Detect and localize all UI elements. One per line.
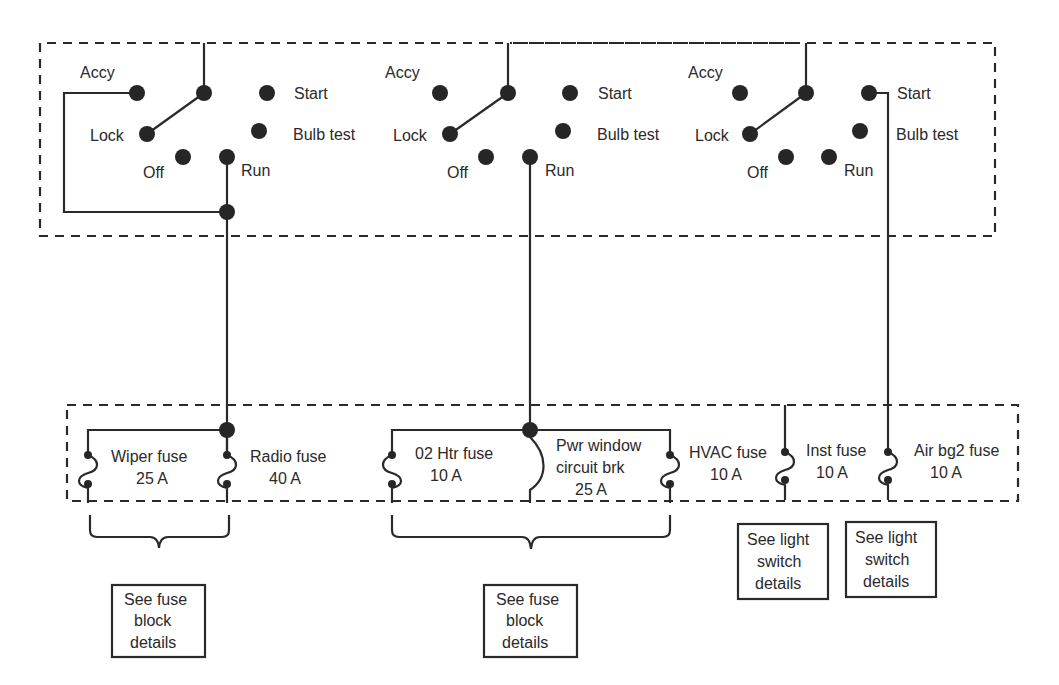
fuse-rating-air-bag: 10 A (930, 464, 962, 481)
fuse-label-wiper: Wiper fuse (111, 448, 188, 465)
position-label-run: Run (844, 162, 873, 179)
terminal-common (500, 85, 516, 101)
reference-box-light-switch-2[interactable]: See light switch details (846, 522, 936, 597)
terminal-accy (732, 85, 748, 101)
reference-box-fuse-block-1[interactable]: See fuse block details (112, 585, 205, 657)
reference-box-text-line1: See fuse (124, 591, 187, 608)
reference-box-fuse-block-2[interactable]: See fuse block details (484, 585, 577, 657)
position-label-lock: Lock (695, 127, 730, 144)
position-label-off: Off (447, 164, 469, 181)
ignition-circuit-diagram: Accy Start Lock Bulb test Off Run Accy S… (0, 0, 1059, 685)
terminal-off (175, 149, 191, 165)
fuse-label-pwr-window-line2: circuit brk (556, 459, 625, 476)
start-output-wire (869, 93, 888, 455)
reference-box-text-line3: details (502, 634, 548, 651)
position-label-start: Start (598, 85, 632, 102)
position-label-accy: Accy (80, 64, 115, 81)
position-label-off: Off (747, 164, 769, 181)
position-label-off: Off (143, 164, 165, 181)
terminal-start (562, 85, 578, 101)
fuse-labels: Wiper fuse 25 A Radio fuse 40 A 02 Htr f… (111, 437, 999, 498)
ignition-switch-enclosure (40, 43, 995, 236)
fuse-terminal (223, 451, 231, 459)
fuse-label-air-bag: Air bg2 fuse (914, 442, 999, 459)
terminal-lock (139, 126, 155, 142)
fuse-rating-pwr-window: 25 A (575, 481, 607, 498)
pwr-window-circuit-breaker-symbol (530, 430, 544, 503)
terminal-bulb-test (555, 123, 571, 139)
position-label-run: Run (241, 162, 270, 179)
accy-jumper-wire (64, 93, 227, 212)
position-label-start: Start (897, 85, 931, 102)
fuse-rating-wiper: 25 A (136, 470, 168, 487)
reference-box-text-line2: switch (865, 551, 909, 568)
terminal-common (196, 85, 212, 101)
position-label-lock: Lock (90, 127, 125, 144)
terminal-off (478, 149, 494, 165)
position-label-lock: Lock (393, 127, 428, 144)
o2-htr-fuse-symbol (383, 455, 401, 503)
grouping-braces (90, 515, 670, 549)
switch-wiper (750, 93, 806, 134)
reference-box-text-line3: details (863, 573, 909, 590)
fuse-terminal (666, 480, 674, 488)
terminal-off (778, 149, 794, 165)
position-label-start: Start (294, 85, 328, 102)
fuse-rating-inst: 10 A (816, 464, 848, 481)
fuse-terminal (388, 480, 396, 488)
pwr-window-fuse-symbol (661, 455, 679, 503)
terminal-bulb-test (251, 123, 267, 139)
fuse-terminal (884, 448, 892, 456)
fuse-block-enclosure (67, 405, 1018, 501)
fuse-terminal (781, 476, 789, 484)
junction-node (522, 422, 538, 438)
reference-box-text-line3: details (755, 575, 801, 592)
terminal-lock (742, 126, 758, 142)
reference-box-light-switch-1[interactable]: See light switch details (738, 524, 828, 599)
position-label-bulb-test: Bulb test (293, 126, 356, 143)
fuse-terminal (84, 451, 92, 459)
position-label-accy: Accy (688, 64, 723, 81)
position-label-bulb-test: Bulb test (597, 126, 660, 143)
fuse-label-inst: Inst fuse (806, 442, 867, 459)
fuse-rating-o2-htr: 10 A (430, 467, 462, 484)
fuse-terminal (781, 448, 789, 456)
fuse-terminal (388, 451, 396, 459)
terminal-accy (432, 85, 448, 101)
reference-box-text-line2: switch (757, 553, 801, 570)
junction-node (219, 204, 235, 220)
terminal-run (821, 149, 837, 165)
position-label-run: Run (545, 162, 574, 179)
terminal-common (798, 85, 814, 101)
switch-wiper (147, 93, 204, 134)
fuse-label-pwr-window-line1: Pwr window (556, 437, 642, 454)
enclosure-border-top (40, 43, 995, 236)
position-label-bulb-test: Bulb test (896, 126, 959, 143)
ignition-switch-3: Accy Start Lock Bulb test Off Run (688, 43, 959, 455)
terminal-run (219, 149, 235, 165)
reference-box-text-line2: block (134, 612, 172, 629)
terminal-start (861, 85, 877, 101)
fuse-terminal (884, 476, 892, 484)
reference-box-text-line3: details (130, 634, 176, 651)
radio-fuse-symbol (218, 430, 236, 503)
brace-o2-pwr-hvac (392, 515, 670, 549)
terminal-run (522, 149, 538, 165)
fuse-terminal (84, 480, 92, 488)
fuse-rating-radio: 40 A (269, 470, 301, 487)
ignition-switch-1: Accy Start Lock Bulb test Off Run (64, 43, 356, 455)
fuse-label-hvac: HVAC fuse (689, 444, 767, 461)
wiper-fuse-symbol (79, 455, 97, 503)
fuse-label-o2-htr: 02 Htr fuse (415, 445, 493, 462)
terminal-lock (442, 126, 458, 142)
terminal-start (259, 85, 275, 101)
position-label-accy: Accy (385, 64, 420, 81)
fuse-block-border (67, 405, 1018, 501)
switch-wiper (450, 93, 508, 134)
fuse-rating-hvac: 10 A (710, 466, 742, 483)
brace-wiper-radio (90, 515, 229, 548)
terminal-accy (129, 85, 145, 101)
terminal-bulb-test (852, 123, 868, 139)
reference-box-text-line1: See light (747, 531, 810, 548)
junction-node (219, 422, 235, 438)
